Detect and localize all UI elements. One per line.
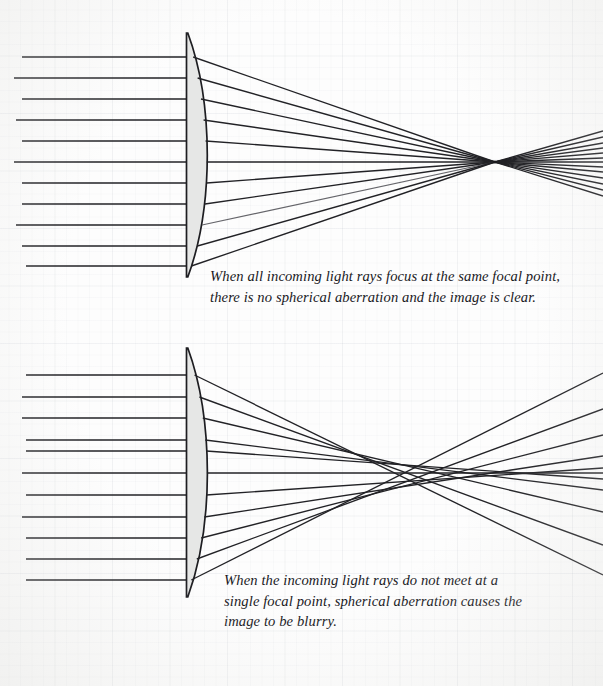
caption-no-aberration: When all incoming light rays focus at th… <box>210 266 580 307</box>
converging-ray <box>207 162 495 183</box>
plano-convex-lens-2 <box>187 348 208 597</box>
converging-rays-group-1 <box>191 57 495 266</box>
aberrated-rays-group-2 <box>191 373 603 580</box>
converging-ray <box>193 57 495 162</box>
converging-ray <box>197 162 495 246</box>
converging-ray <box>202 162 495 225</box>
converging-ray <box>204 120 495 162</box>
figure-page: When all incoming light rays focus at th… <box>0 0 603 686</box>
converging-ray <box>206 141 495 162</box>
converging-ray <box>191 162 495 266</box>
incoming-rays-group-2 <box>22 375 187 580</box>
focal-point-marker <box>493 160 497 163</box>
figure-ideal-focus <box>14 33 603 277</box>
diverging-ray <box>495 162 603 184</box>
converging-ray <box>198 78 495 162</box>
converging-ray <box>201 99 495 162</box>
figure-spherical-aberration <box>22 348 603 597</box>
incoming-rays-group-1 <box>14 57 187 266</box>
plano-convex-lens-1 <box>187 33 208 277</box>
caption-spherical-aberration: When the incoming light rays do not meet… <box>224 570 564 632</box>
diverging-rays-group-1 <box>495 131 603 196</box>
converging-ray <box>205 162 495 204</box>
